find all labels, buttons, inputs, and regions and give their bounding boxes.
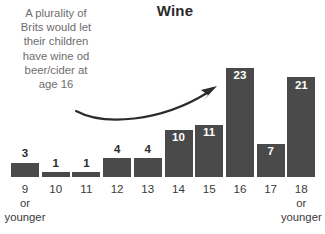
x-tick-value: 15 (203, 182, 216, 195)
x-tick-value: 10 (49, 182, 62, 195)
x-tick-value: 11 (80, 182, 92, 195)
x-tick-value: 9 (22, 182, 28, 195)
x-tick-value: 17 (264, 182, 277, 195)
x-tick-qualifier-line2: younger (278, 210, 324, 224)
x-tick-value: 14 (172, 182, 185, 195)
x-tick-value: 18 (295, 182, 308, 195)
x-axis-labels: 9oryounger101112131415161718oryounger (0, 0, 325, 234)
x-tick-value: 13 (141, 182, 154, 195)
x-tick-qualifier-line2: younger (2, 210, 48, 224)
x-tick-qualifier-line1: or (278, 196, 324, 210)
x-tick-value: 12 (111, 182, 124, 195)
wine-bar-chart: Wine A plurality ofBrits would lettheir … (0, 0, 325, 234)
x-tick-label: 18oryounger (278, 182, 324, 224)
x-tick-value: 16 (233, 182, 246, 195)
x-tick-qualifier-line1: or (2, 196, 48, 210)
